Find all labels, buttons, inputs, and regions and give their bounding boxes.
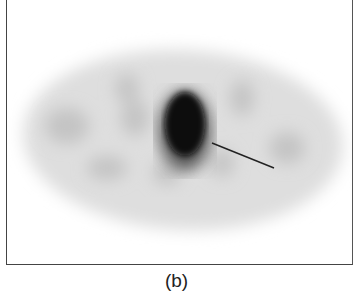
- scan-image-frame: [6, 0, 353, 265]
- figure-caption: (b): [0, 270, 353, 292]
- scan-image: [7, 0, 352, 264]
- hotspot: [165, 92, 205, 156]
